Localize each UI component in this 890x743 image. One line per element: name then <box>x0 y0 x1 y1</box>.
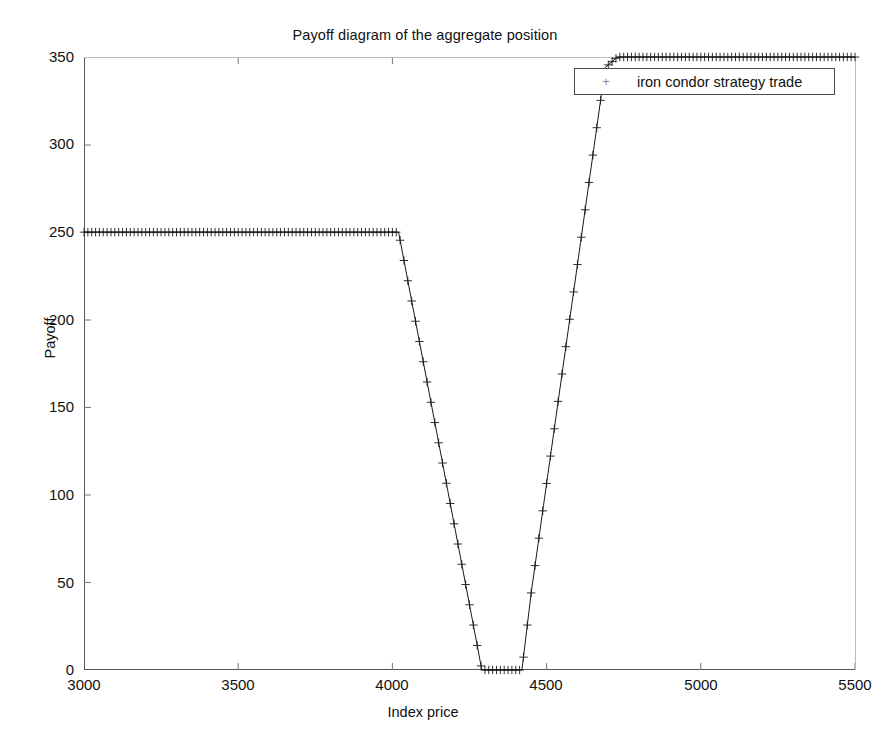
series-markers <box>80 53 859 674</box>
series-line <box>84 57 855 670</box>
data-series-iron-condor <box>80 53 859 674</box>
axis-ticks <box>84 57 855 670</box>
payoff-chart-figure: Payoff diagram of the aggregate position… <box>0 0 890 743</box>
legend[interactable]: + iron condor strategy trade <box>574 68 835 95</box>
legend-entry-label: iron condor strategy trade <box>637 74 802 90</box>
plot-canvas <box>0 0 890 743</box>
axes-lines <box>84 57 855 670</box>
legend-marker-icon: + <box>575 75 637 88</box>
